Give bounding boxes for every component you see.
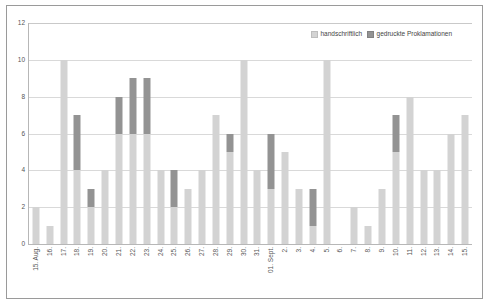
bar-stack[interactable] xyxy=(282,152,289,244)
x-tick-label: 26. xyxy=(185,247,192,256)
bar-segment-handschriftlich xyxy=(46,226,53,244)
bar-stack[interactable] xyxy=(143,78,150,244)
bar-segment-handschriftlich xyxy=(434,170,441,244)
bar-slot: 16. xyxy=(43,23,57,244)
bar-stack[interactable] xyxy=(157,170,164,244)
y-tick-label: 8 xyxy=(21,93,25,100)
bar-segment-handschriftlich xyxy=(226,152,233,244)
bar-segment-handschriftlich xyxy=(379,189,386,244)
bar-stack[interactable] xyxy=(212,115,219,244)
x-tick-label: 18. xyxy=(74,247,81,256)
x-tick-label: 24. xyxy=(157,247,164,256)
bar-stack[interactable] xyxy=(88,189,95,244)
legend-swatch-gedruckte-icon xyxy=(367,31,374,38)
plot-wrapper: 024681012 15. Aug.16.17.18.19.20.21.22.2… xyxy=(0,0,489,305)
legend-label-handschriftlich: handschriftlich xyxy=(321,31,363,38)
bar-segment-handschriftlich xyxy=(88,207,95,244)
bar-stack[interactable] xyxy=(392,115,399,244)
bar-segment-handschriftlich xyxy=(309,226,316,244)
x-tick-label: 28. xyxy=(213,247,220,256)
bar-segment-handschriftlich xyxy=(102,170,109,244)
bar-segment-handschriftlich xyxy=(282,152,289,244)
bar-stack[interactable] xyxy=(115,97,122,244)
x-tick-label: 15. xyxy=(462,247,469,256)
bar-slot: 7. xyxy=(347,23,361,244)
bar-slot: 21. xyxy=(112,23,126,244)
bar-stack[interactable] xyxy=(74,115,81,244)
bar-slot: 8. xyxy=(361,23,375,244)
bar-stack[interactable] xyxy=(268,134,275,245)
bar-slot: 24. xyxy=(154,23,168,244)
bar-segment-handschriftlich xyxy=(185,189,192,244)
bar-stack[interactable] xyxy=(240,60,247,244)
x-tick-label: 5. xyxy=(323,247,330,252)
x-tick-label: 16. xyxy=(47,247,54,256)
bar-segment-handschriftlich xyxy=(392,152,399,244)
bar-segment-gedruckte xyxy=(268,134,275,189)
bar-segment-handschriftlich xyxy=(32,207,39,244)
bar-stack[interactable] xyxy=(254,170,261,244)
y-tick-label: 0 xyxy=(21,241,25,248)
bar-segment-handschriftlich xyxy=(323,60,330,244)
bar-slot: 12. xyxy=(417,23,431,244)
bar-slot: 5. xyxy=(320,23,334,244)
x-tick-label: 2. xyxy=(282,247,289,252)
x-tick-label: 25. xyxy=(171,247,178,256)
x-tick-label: 13. xyxy=(434,247,441,256)
bar-segment-gedruckte xyxy=(129,78,136,133)
legend-item-gedruckte: gedruckte Proklamationen xyxy=(367,31,452,38)
bar-stack[interactable] xyxy=(309,189,316,244)
bar-slot: 19. xyxy=(84,23,98,244)
bar-stack[interactable] xyxy=(420,170,427,244)
legend-item-handschriftlich: handschriftlich xyxy=(311,31,362,38)
bar-stack[interactable] xyxy=(129,78,136,244)
bar-segment-handschriftlich xyxy=(199,170,206,244)
x-tick-label: 30. xyxy=(240,247,247,256)
bar-segment-handschriftlich xyxy=(295,189,302,244)
bar-slot: 30. xyxy=(237,23,251,244)
x-tick-label: 3. xyxy=(296,247,303,252)
x-tick-label: 17. xyxy=(60,247,67,256)
bar-segment-handschriftlich xyxy=(129,134,136,245)
bar-stack[interactable] xyxy=(365,226,372,244)
bar-stack[interactable] xyxy=(351,207,358,244)
bar-stack[interactable] xyxy=(171,170,178,244)
bar-slot: 6. xyxy=(334,23,348,244)
x-tick-label: 29. xyxy=(226,247,233,256)
bar-segment-gedruckte xyxy=(171,170,178,207)
bar-stack[interactable] xyxy=(185,189,192,244)
bar-stack[interactable] xyxy=(102,170,109,244)
bar-stack[interactable] xyxy=(226,134,233,244)
y-tick-label: 12 xyxy=(18,20,25,27)
bar-slot: 28. xyxy=(209,23,223,244)
bar-segment-handschriftlich xyxy=(60,60,67,244)
bar-slot: 14. xyxy=(444,23,458,244)
bar-stack[interactable] xyxy=(60,60,67,244)
y-tick-label: 2 xyxy=(21,204,25,211)
bar-slot: 15. Aug. xyxy=(29,23,43,244)
bar-stack[interactable] xyxy=(32,207,39,244)
bar-stack[interactable] xyxy=(379,189,386,244)
bar-slot: 01. Sept. xyxy=(264,23,278,244)
bar-stack[interactable] xyxy=(323,60,330,244)
legend-label-gedruckte: gedruckte Proklamationen xyxy=(377,31,453,38)
bar-slot: 29. xyxy=(223,23,237,244)
bar-segment-handschriftlich xyxy=(240,60,247,244)
x-tick-label: 23. xyxy=(143,247,150,256)
y-tick-label: 4 xyxy=(21,167,25,174)
bar-stack[interactable] xyxy=(199,170,206,244)
bar-slot: 10. xyxy=(389,23,403,244)
x-tick-label: 8. xyxy=(365,247,372,252)
bar-stack[interactable] xyxy=(406,97,413,244)
bar-slot: 3. xyxy=(292,23,306,244)
bar-segment-handschriftlich xyxy=(157,170,164,244)
bar-segment-gedruckte xyxy=(115,97,122,134)
bar-stack[interactable] xyxy=(46,226,53,244)
bar-segment-gedruckte xyxy=(74,115,81,170)
bar-slot: 9. xyxy=(375,23,389,244)
bar-stack[interactable] xyxy=(434,170,441,244)
bar-stack[interactable] xyxy=(462,115,469,244)
bar-segment-gedruckte xyxy=(309,189,316,226)
bar-stack[interactable] xyxy=(295,189,302,244)
bar-stack[interactable] xyxy=(448,134,455,245)
